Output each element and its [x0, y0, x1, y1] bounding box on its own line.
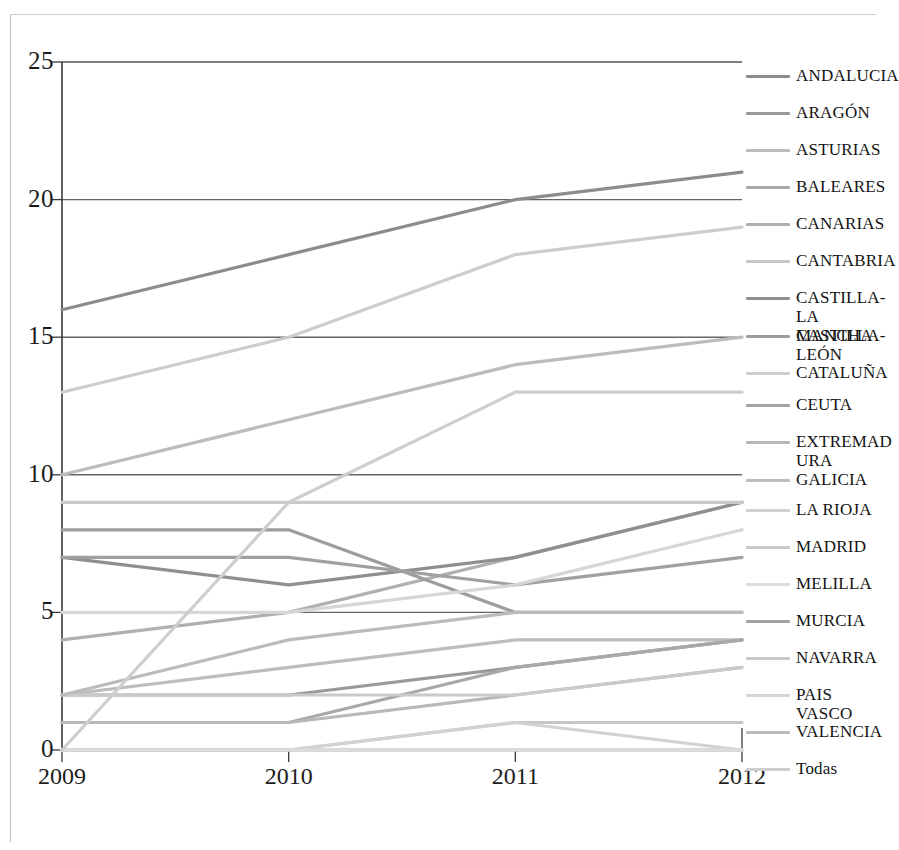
legend-item-label: CANARIAS	[796, 214, 885, 233]
legend-item-label: VALENCIA	[796, 722, 882, 741]
legend-item: VALENCIA	[746, 722, 881, 741]
legend-swatch-icon	[746, 441, 790, 444]
y-tick-label: 0	[12, 736, 54, 761]
legend-item-label: BALEARES	[796, 177, 885, 196]
y-axis-tick-labels: 2520151050	[0, 0, 54, 850]
series-line	[62, 227, 742, 392]
legend-swatch-icon	[746, 297, 790, 300]
legend-swatch-icon	[746, 694, 790, 697]
series-line	[62, 640, 742, 695]
legend-item-label: CANTABRIA	[796, 251, 896, 270]
legend-item: MURCIA	[746, 611, 881, 630]
legend-swatch-icon	[746, 260, 790, 263]
legend-item-label: CEUTA	[796, 395, 852, 414]
legend-item-label: ASTURIAS	[796, 140, 881, 159]
legend-item: EXTREMAD URA	[746, 432, 881, 470]
legend-item-label: ARAGÓN	[796, 103, 870, 122]
legend-item-label: MELILLA	[796, 574, 872, 593]
legend-swatch-icon	[746, 112, 790, 115]
y-tick-label: 20	[12, 186, 54, 211]
legend-item: MELILLA	[746, 574, 881, 593]
legend-swatch-icon	[746, 75, 790, 78]
legend-swatch-icon	[746, 583, 790, 586]
legend-item: NAVARRA	[746, 648, 881, 667]
y-tick-label: 10	[12, 461, 54, 486]
legend-item: BALEARES	[746, 177, 881, 196]
legend-item: ANDALUCIA	[746, 66, 881, 85]
legend-item: CEUTA	[746, 395, 881, 414]
x-axis-tick-labels: 2009201020112012	[0, 762, 760, 802]
y-tick-label: 15	[12, 323, 54, 348]
legend-swatch-icon	[746, 620, 790, 623]
legend-swatch-icon	[746, 731, 790, 734]
chart-legend: ANDALUCIAARAGÓNASTURIASBALEARESCANARIASC…	[746, 60, 881, 780]
legend-item: CANARIAS	[746, 214, 881, 233]
legend-item: CANTABRIA	[746, 251, 881, 270]
series-line	[62, 337, 742, 475]
legend-item-label: CASTILLA- LEÓN	[796, 326, 886, 364]
legend-item: Todas	[746, 759, 881, 778]
legend-item-label: NAVARRA	[796, 648, 877, 667]
legend-item: LA RIOJA	[746, 500, 881, 519]
legend-item: MADRID	[746, 537, 881, 556]
legend-item: ASTURIAS	[746, 140, 881, 159]
legend-item: CASTILLA- LEÓN	[746, 326, 881, 364]
x-tick-label: 2009	[2, 762, 122, 790]
legend-swatch-icon	[746, 546, 790, 549]
legend-swatch-icon	[746, 479, 790, 482]
legend-swatch-icon	[746, 372, 790, 375]
legend-swatch-icon	[746, 335, 790, 338]
legend-item-label: MADRID	[796, 537, 866, 556]
legend-item-label: PAIS VASCO	[796, 685, 881, 723]
legend-item: CATALUÑA	[746, 363, 881, 382]
legend-swatch-icon	[746, 404, 790, 407]
legend-item: GALICIA	[746, 470, 881, 489]
legend-swatch-icon	[746, 509, 790, 512]
legend-swatch-icon	[746, 149, 790, 152]
y-tick-label: 25	[12, 48, 54, 73]
legend-item-label: LA RIOJA	[796, 500, 872, 519]
y-tick-label: 5	[12, 598, 54, 623]
x-tick-label: 2010	[229, 762, 349, 790]
legend-item-label: MURCIA	[796, 611, 865, 630]
legend-item-label: Todas	[796, 759, 837, 778]
series-line	[62, 640, 742, 695]
legend-item-label: GALICIA	[796, 470, 867, 489]
series-line	[62, 723, 742, 751]
legend-swatch-icon	[746, 223, 790, 226]
legend-item: ARAGÓN	[746, 103, 881, 122]
x-tick-label: 2011	[455, 762, 575, 790]
legend-swatch-icon	[746, 657, 790, 660]
legend-item-label: ANDALUCIA	[796, 66, 899, 85]
legend-swatch-icon	[746, 768, 790, 771]
legend-item-label: EXTREMAD URA	[796, 432, 892, 470]
legend-swatch-icon	[746, 186, 790, 189]
legend-item-label: CATALUÑA	[796, 363, 888, 382]
legend-item: PAIS VASCO	[746, 685, 881, 723]
